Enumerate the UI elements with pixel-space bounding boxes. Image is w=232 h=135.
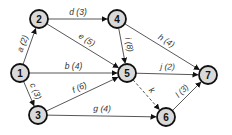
edge-h-label: h (4) [156, 32, 176, 50]
node-2: 2 [30, 10, 48, 28]
node-label: 3 [35, 110, 41, 121]
node-label: 4 [114, 14, 120, 25]
edge-g-arrow [47, 115, 156, 117]
edge-g-label: g (4) [93, 103, 111, 113]
edge-d-label: d (3) [69, 7, 87, 17]
node-label: 2 [36, 14, 42, 25]
node-5: 5 [118, 64, 136, 82]
edge-j-arrow [136, 73, 198, 75]
network-diagram: a (2)b (4)c (3)d (3)e (5)f (6)g (4)h (4)… [0, 0, 232, 135]
edge-k-label: k [147, 85, 158, 95]
node-7: 7 [199, 66, 217, 84]
node-label: 7 [205, 70, 211, 81]
diagram-svg: a (2)b (4)c (3)d (3)e (5)f (6)g (4)h (4)… [0, 0, 232, 135]
edge-e-label: e (5) [77, 31, 97, 49]
node-3: 3 [29, 106, 47, 124]
node-label: 5 [124, 68, 130, 79]
node-6: 6 [157, 108, 175, 126]
edge-b-label: b (4) [65, 61, 83, 71]
edge-j-label: j (2) [159, 61, 175, 71]
node-1: 1 [11, 64, 29, 82]
nodes-layer: 1234567 [11, 10, 217, 126]
edge-k-arrow [133, 80, 159, 110]
node-label: 6 [163, 112, 169, 123]
edge-l-label: l (3) [173, 82, 191, 100]
node-label: 1 [17, 68, 23, 79]
edge-i-arrow [119, 28, 126, 63]
node-4: 4 [108, 10, 126, 28]
edge-i-label: i (8) [123, 37, 136, 53]
